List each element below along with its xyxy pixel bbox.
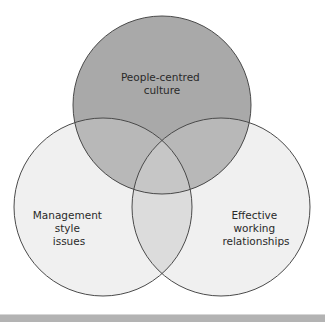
- bottom-bar: [0, 314, 325, 322]
